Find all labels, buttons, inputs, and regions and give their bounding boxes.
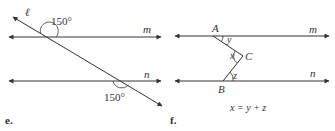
equation: x = y + z xyxy=(229,102,266,113)
point-c: C xyxy=(245,50,253,62)
angle-arc-y xyxy=(222,36,224,42)
angle-label-x: x xyxy=(229,50,235,61)
label-m-f: m xyxy=(309,23,317,35)
label-l: ℓ xyxy=(25,6,30,18)
figure-f: A C B y x z m n x = y + z f. xyxy=(170,22,329,126)
angle-label-y: y xyxy=(226,34,232,45)
angle-label-top: 150° xyxy=(51,15,72,27)
figure-label-e: e. xyxy=(5,114,13,126)
transversal-l xyxy=(13,17,162,106)
point-a: A xyxy=(211,22,219,34)
label-n-e: n xyxy=(144,68,150,80)
figure-label-f: f. xyxy=(170,114,177,126)
figure-e: ℓ 150° m n 150° e. xyxy=(5,6,162,126)
angle-label-bottom: 150° xyxy=(104,91,125,103)
label-n-f: n xyxy=(310,67,316,79)
point-b: B xyxy=(218,83,225,95)
label-m-e: m xyxy=(143,23,151,35)
geometry-diagram: ℓ 150° m n 150° e. A C B y x z m n x = y… xyxy=(0,0,335,131)
angle-label-z: z xyxy=(232,70,237,81)
